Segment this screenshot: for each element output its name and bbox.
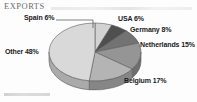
slice-label-belgium: Belgium 17% xyxy=(124,77,166,85)
pie-chart: Spain 6% USA 6% Germany 8% Netherlands 1… xyxy=(0,11,197,91)
slice-label-usa: USA 6% xyxy=(118,15,144,23)
page-title: EXPORTS xyxy=(4,1,45,11)
exports-pie-chart-figure: EXPORTS Spain 6% USA 6% Germany 8% Nethe… xyxy=(0,0,197,102)
slice-label-netherlands: Netherlands 15% xyxy=(140,41,195,49)
horizontal-rule-icon xyxy=(51,7,192,10)
slice-label-other: Other 48% xyxy=(5,48,39,56)
footer-note xyxy=(4,93,50,96)
slice-label-spain: Spain 6% xyxy=(24,14,54,22)
slice-label-germany: Germany 8% xyxy=(130,26,171,34)
